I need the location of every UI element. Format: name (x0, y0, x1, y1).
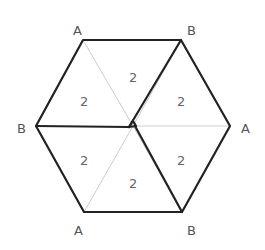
vertex-label-bottom-left: A (74, 223, 83, 238)
region-label-upper-left: 2 (80, 94, 88, 109)
vertex-label-bottom-right: B (187, 223, 196, 238)
spoke-top-left (83, 40, 133, 126)
spoke-bottom-right (135, 126, 182, 212)
region-label-upper-right: 2 (177, 94, 185, 109)
vertex-label-top-left: A (73, 23, 82, 38)
vertex-label-right: A (241, 121, 250, 136)
region-label-bottom: 2 (129, 176, 137, 191)
spoke-left (36, 126, 129, 127)
spoke-bottom-left (84, 126, 133, 212)
vertex-labels: A B B A A B (17, 23, 250, 238)
region-labels: 2 2 2 2 2 2 (80, 70, 185, 191)
vertex-label-top-right: B (187, 23, 196, 38)
region-label-lower-right: 2 (177, 153, 185, 168)
region-label-top: 2 (129, 70, 137, 85)
vertex-label-left: B (17, 121, 26, 136)
region-label-lower-left: 2 (80, 153, 88, 168)
hexagon-diagram: A B B A A B 2 2 2 2 2 2 (0, 0, 265, 250)
